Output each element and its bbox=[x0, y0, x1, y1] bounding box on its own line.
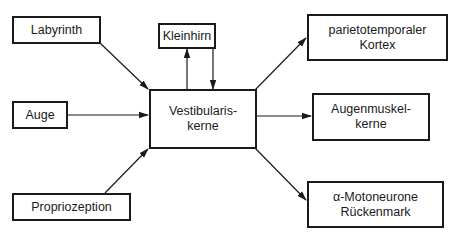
node-label-line-2: kerne bbox=[187, 119, 218, 134]
node-label-line-2: Rückenmark bbox=[340, 205, 410, 220]
node-label-line-1: Augenmuskel- bbox=[331, 102, 411, 117]
node-label: Auge bbox=[25, 108, 54, 123]
arrow-vestibular-to-kortex bbox=[255, 38, 306, 90]
node-label: Propriozeption bbox=[31, 200, 112, 215]
vestibular-diagram: Labyrinth Auge Propriozeption Kleinhirn … bbox=[0, 0, 456, 238]
node-label-line-1: α-Motoneurone bbox=[333, 190, 418, 205]
node-propriozeption: Propriozeption bbox=[12, 193, 131, 221]
arrow-vestibular-to-motoneurone bbox=[255, 148, 306, 200]
node-label-line-1: Vestibularis- bbox=[169, 104, 237, 119]
node-parietotemporaler-kortex: parietotemporaler Kortex bbox=[307, 14, 448, 61]
node-label-line-2: kerne bbox=[355, 117, 386, 132]
node-auge: Auge bbox=[12, 101, 68, 129]
node-label: Kleinhirn bbox=[163, 29, 212, 44]
node-label-line-2: Kortex bbox=[359, 38, 395, 53]
node-augenmuskelkerne: Augenmuskel- kerne bbox=[312, 93, 430, 141]
node-labyrinth: Labyrinth bbox=[12, 16, 101, 44]
node-label-line-1: parietotemporaler bbox=[329, 23, 427, 38]
node-alpha-motoneurone-rueckenmark: α-Motoneurone Rückenmark bbox=[307, 181, 444, 228]
arrow-labyrinth-to-vestibular bbox=[100, 43, 148, 89]
node-label: Labyrinth bbox=[31, 23, 82, 38]
node-vestibulariskerne: Vestibularis- kerne bbox=[149, 89, 257, 149]
arrow-propriozeption-to-vestibular bbox=[105, 149, 148, 193]
node-kleinhirn: Kleinhirn bbox=[158, 23, 216, 49]
